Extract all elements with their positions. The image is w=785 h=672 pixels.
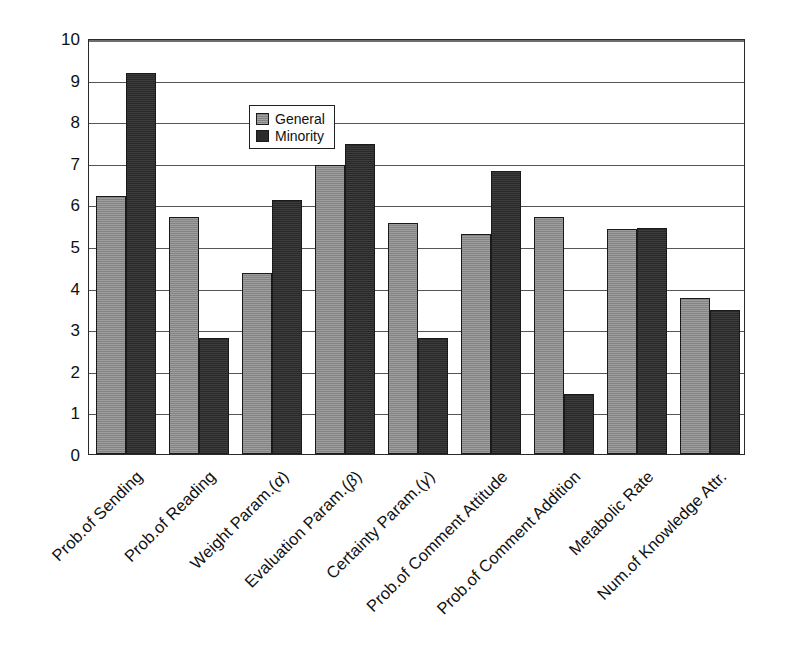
bar-group [534, 40, 594, 454]
bar-general [242, 273, 272, 454]
bar-minority [418, 338, 448, 454]
x-axis-label: Prob.of Comment Addition [433, 467, 584, 618]
bar-group [96, 40, 156, 454]
bar-general [461, 234, 491, 454]
bar-group [242, 40, 302, 454]
legend-label-general: General [275, 112, 325, 126]
plot-area [88, 39, 745, 455]
bar-minority [637, 228, 667, 454]
legend-label-minority: Minority [275, 129, 324, 143]
chart-legend: General Minority [249, 105, 335, 149]
bar-group [461, 40, 521, 454]
bar-group [169, 40, 229, 454]
legend-item-minority: Minority [256, 127, 325, 144]
bar-general [680, 298, 710, 454]
general-swatch-icon [256, 113, 269, 125]
bar-general [96, 196, 126, 454]
bar-minority [272, 200, 302, 454]
bar-general [315, 165, 345, 454]
y-axis-tick: 6 [46, 197, 80, 214]
bars-layer [89, 40, 744, 454]
y-axis-tick: 8 [46, 114, 80, 131]
y-axis-tick: 9 [46, 72, 80, 89]
bar-minority [710, 310, 740, 454]
bar-group [315, 40, 375, 454]
bar-minority [564, 394, 594, 454]
bar-general [388, 223, 418, 454]
y-axis-tick: 5 [46, 239, 80, 256]
bar-minority [345, 144, 375, 454]
chart-page: 109876543210 General Minority Prob.of Se… [0, 0, 785, 672]
y-axis-tick: 4 [46, 280, 80, 297]
minority-swatch-icon [256, 130, 269, 142]
y-axis-tick: 7 [46, 155, 80, 172]
bar-minority [199, 338, 229, 454]
bar-general [169, 217, 199, 454]
y-axis-tick: 10 [46, 31, 80, 48]
y-axis-tick-labels: 109876543210 [40, 39, 80, 455]
x-axis-label: Prob.of Comment Attitude [362, 467, 511, 616]
bar-general [534, 217, 564, 454]
y-axis-tick: 3 [46, 322, 80, 339]
bar-minority [126, 73, 156, 454]
x-axis-category-labels: Prob.of SendingProb.of ReadingWeight Par… [0, 455, 785, 670]
bar-group [388, 40, 448, 454]
x-axis-label: Num.of Knowledge Attr. [593, 467, 730, 604]
bar-group [607, 40, 667, 454]
bar-general [607, 229, 637, 454]
legend-item-general: General [256, 110, 325, 127]
y-axis-tick: 2 [46, 363, 80, 380]
y-axis-tick: 1 [46, 405, 80, 422]
bar-group [680, 40, 740, 454]
bar-minority [491, 171, 521, 454]
